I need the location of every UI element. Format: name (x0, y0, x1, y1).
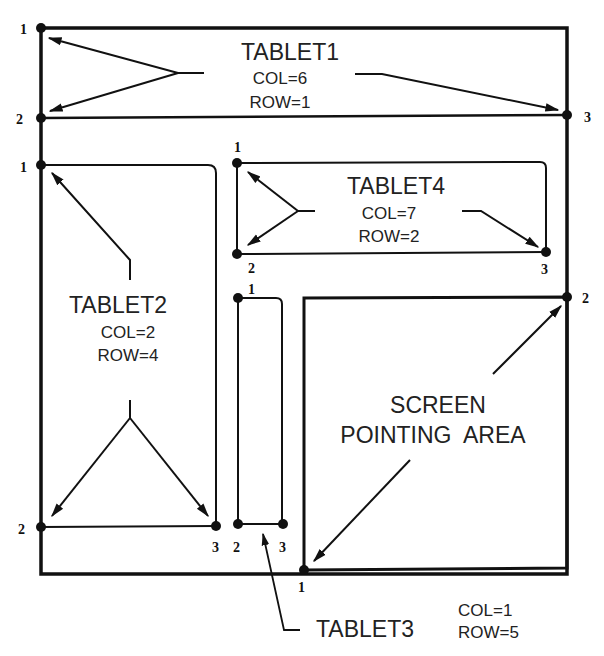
tablet3-point-2: 2 (233, 540, 240, 555)
tablet1-title: TABLET1 (241, 39, 339, 65)
screen-area-line1: SCREEN (390, 392, 486, 418)
tablet1-point-3: 3 (584, 110, 591, 125)
tablet4-row: ROW=2 (359, 227, 420, 246)
tablet2-col: COL=2 (101, 323, 155, 342)
tablet2-title: TABLET2 (69, 292, 167, 318)
tablet2-row: ROW=4 (98, 346, 159, 365)
tablet3-point-3: 3 (279, 540, 286, 555)
tablet1-col: COL=6 (253, 69, 307, 88)
tablet2-point-2: 2 (18, 522, 25, 537)
tablet3-point-1: 1 (248, 282, 255, 297)
tablet4-point-2: 2 (248, 261, 255, 276)
tablet3-title: TABLET3 (316, 616, 414, 642)
tablet4-point-3: 3 (541, 262, 548, 277)
tablet3-points (233, 293, 288, 529)
tablet3-col: COL=1 (458, 601, 512, 620)
tablet1-row: ROW=1 (250, 93, 311, 112)
tablet2-point-1: 1 (20, 160, 27, 175)
screen-area-line2: POINTING AREA (340, 422, 526, 448)
tablet1-point-2: 2 (16, 112, 23, 127)
tablet4-point-1: 1 (234, 140, 241, 155)
screen-point-1: 1 (298, 580, 305, 595)
tablet4-col: COL=7 (362, 204, 416, 223)
tablet1-point-1: 1 (20, 22, 27, 37)
tablet4-title: TABLET4 (347, 173, 445, 199)
tablet2-point-3: 3 (212, 540, 219, 555)
tablet3-area (238, 298, 300, 630)
tablet3-row: ROW=5 (458, 623, 519, 642)
tablet-configuration-diagram: TABLET1 COL=6 ROW=1 1 2 3 TABLET2 COL=2 … (0, 0, 604, 656)
screen-point-2: 2 (582, 291, 589, 306)
